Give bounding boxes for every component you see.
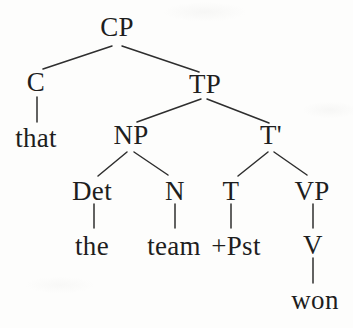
node-label-v: V xyxy=(303,232,323,259)
syntax-tree-diagram: CP C TP that NP T' Det N T VP the team +… xyxy=(0,0,353,328)
node-label-cp: CP xyxy=(100,14,134,41)
edge-tp-np xyxy=(137,99,201,122)
node-label-vp: VP xyxy=(294,178,329,205)
node-label-pst: +Pst xyxy=(211,233,260,260)
node-label-tp: TP xyxy=(189,71,221,98)
edge-np-det xyxy=(98,152,127,176)
edge-tbar-t xyxy=(238,152,268,176)
node-label-won: won xyxy=(291,287,338,314)
node-label-np: NP xyxy=(113,122,148,149)
node-label-team: team xyxy=(147,233,201,260)
node-label-the: the xyxy=(75,233,109,260)
node-label-t: T xyxy=(223,178,240,205)
tree-edges xyxy=(0,0,353,328)
edge-np-n xyxy=(134,152,168,175)
node-label-det: Det xyxy=(72,178,112,205)
edge-cp-c xyxy=(43,46,112,69)
node-label-that: that xyxy=(15,125,57,152)
node-label-c: C xyxy=(27,69,45,96)
node-label-tbar: T' xyxy=(260,122,282,149)
edge-tbar-vp xyxy=(274,152,307,175)
node-label-n: N xyxy=(165,178,185,205)
edge-cp-tp xyxy=(122,46,199,72)
